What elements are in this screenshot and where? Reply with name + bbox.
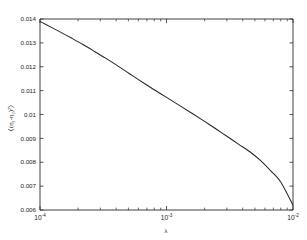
y-tick-label: 0.009 xyxy=(21,135,37,142)
y-label-open-bracket: 〈 xyxy=(7,128,14,135)
x-tick-exponent: -2 xyxy=(295,213,300,218)
y-tick-label: 0.006 xyxy=(21,206,37,213)
y-tick-label: 0.013 xyxy=(21,39,37,46)
figure-container: 0.0140.0130.0120.0110.010.0090.0080.0070… xyxy=(0,0,307,240)
y-tick-label: 0.011 xyxy=(21,87,37,94)
y-label-close-bracket: 〉 xyxy=(7,101,14,108)
chart-canvas: 0.0140.0130.0120.0110.010.0090.0080.0070… xyxy=(0,0,307,240)
y-tick-label: 0.01 xyxy=(24,111,37,118)
y-tick-label: 0.014 xyxy=(21,15,37,22)
x-tick-exponent: -3 xyxy=(168,213,173,218)
y-tick-label: 0.007 xyxy=(21,182,37,189)
x-tick-exponent: -4 xyxy=(42,213,47,218)
x-axis-label: λ xyxy=(164,227,168,235)
figure-background xyxy=(0,0,307,240)
y-tick-label: 0.012 xyxy=(21,63,37,70)
x-axis-label-text: λ xyxy=(164,227,168,235)
y-tick-label: 0.008 xyxy=(21,158,37,165)
